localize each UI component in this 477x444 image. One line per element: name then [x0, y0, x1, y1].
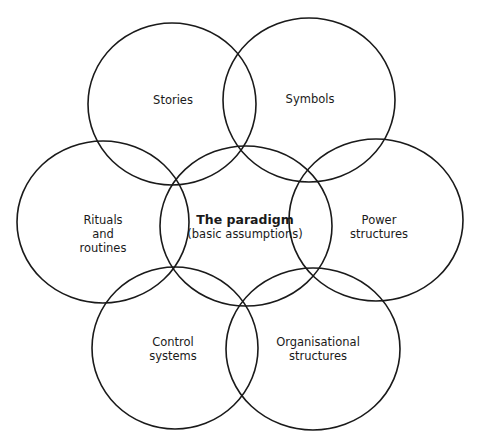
- label-rituals-line-3: routines: [80, 241, 127, 255]
- label-organisational-line-1: Organisational: [276, 335, 360, 349]
- label-control-systems: Control systems: [149, 335, 197, 363]
- paradigm-subtitle: (basic assumptions): [187, 227, 302, 241]
- label-symbols: Symbols: [286, 92, 335, 106]
- paradigm-title: The paradigm: [187, 213, 302, 227]
- label-power-line-2: structures: [350, 227, 408, 241]
- label-control-line-1: Control: [149, 335, 197, 349]
- label-power-structures: Power structures: [350, 213, 408, 241]
- label-control-line-2: systems: [149, 349, 197, 363]
- label-organisational-structures: Organisational structures: [276, 335, 360, 363]
- label-paradigm: The paradigm (basic assumptions): [187, 213, 302, 241]
- label-organisational-line-2: structures: [276, 349, 360, 363]
- label-rituals-line-1: Rituals: [80, 213, 127, 227]
- label-power-line-1: Power: [350, 213, 408, 227]
- label-rituals-and-routines: Rituals and routines: [80, 213, 127, 255]
- label-symbols-text: Symbols: [286, 92, 335, 106]
- label-stories-text: Stories: [153, 93, 193, 107]
- label-rituals-line-2: and: [80, 227, 127, 241]
- label-stories: Stories: [153, 93, 193, 107]
